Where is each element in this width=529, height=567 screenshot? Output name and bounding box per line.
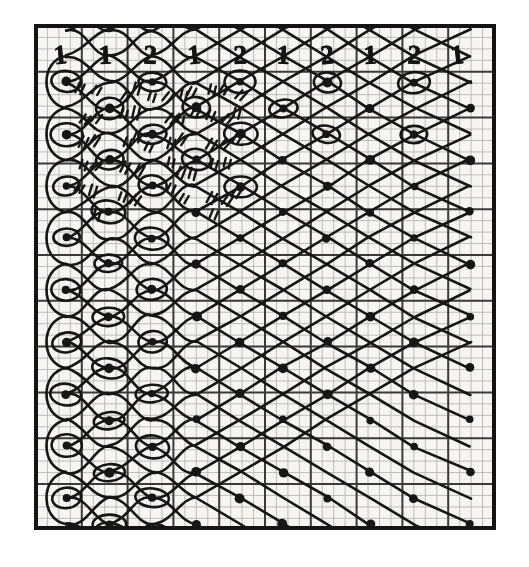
plain-node <box>192 312 202 322</box>
plain-node <box>191 467 201 477</box>
plain-node <box>193 415 201 423</box>
plain-node <box>279 416 287 424</box>
plain-node <box>465 155 475 165</box>
plain-node <box>467 313 475 321</box>
plain-node <box>409 494 418 503</box>
plain-node <box>365 468 374 477</box>
plain-node <box>323 182 332 191</box>
header-digit: 1 <box>276 41 290 68</box>
header-digit: 1 <box>52 41 68 69</box>
plain-node <box>365 104 374 113</box>
plain-node <box>235 338 244 347</box>
plain-node <box>366 364 375 373</box>
plain-node <box>236 285 245 294</box>
plain-node <box>366 312 376 322</box>
plain-node <box>323 286 331 294</box>
plain-node <box>236 442 245 451</box>
plain-node <box>410 285 419 294</box>
plain-node <box>366 417 374 425</box>
plain-node <box>279 156 287 164</box>
plain-node <box>279 312 287 320</box>
plain-node <box>323 389 333 399</box>
plain-node <box>191 260 200 269</box>
header-digit: 2 <box>143 41 157 68</box>
pattern-figure: 1121212121 <box>0 0 529 567</box>
plain-node <box>466 468 475 477</box>
plain-node <box>411 183 418 190</box>
plain-node <box>323 495 331 503</box>
plain-node <box>235 494 245 504</box>
plain-node <box>466 104 475 113</box>
header-digit: 2 <box>319 41 335 69</box>
plain-node <box>278 364 288 374</box>
plain-node <box>279 259 287 267</box>
plain-node <box>465 207 473 215</box>
header-digit: 2 <box>233 41 247 68</box>
plain-node <box>323 337 332 346</box>
plain-node <box>466 416 474 424</box>
plain-node <box>466 363 475 372</box>
plain-node <box>409 338 419 348</box>
plain-node <box>365 259 374 268</box>
pattern-canvas <box>0 0 529 567</box>
plain-node <box>409 390 419 400</box>
plain-node <box>279 208 287 216</box>
plain-node <box>279 468 288 477</box>
plain-node <box>235 389 244 398</box>
plain-node <box>410 234 417 241</box>
plain-node <box>410 443 418 451</box>
header-digit: 2 <box>407 41 421 68</box>
plain-node <box>466 260 476 270</box>
header-digit: 1 <box>449 41 465 69</box>
header-digit: 1 <box>186 41 202 69</box>
header-digit: 1 <box>98 41 112 68</box>
plain-node <box>237 234 245 242</box>
plain-node <box>367 209 375 217</box>
plain-node <box>322 234 330 242</box>
plain-node <box>323 443 332 452</box>
header-digit: 1 <box>363 41 377 68</box>
plain-node <box>191 364 200 373</box>
plain-node <box>191 208 200 217</box>
plain-node <box>365 155 375 165</box>
